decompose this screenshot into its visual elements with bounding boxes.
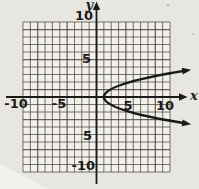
parabola-plot: y x -10 -5 5 10 10 5 5 -10 bbox=[0, 0, 199, 189]
x-axis-label: x bbox=[189, 88, 198, 103]
y-tick-neg10: -10 bbox=[72, 158, 96, 173]
x-tick-10: 10 bbox=[156, 98, 174, 113]
scan-speck bbox=[167, 4, 170, 7]
graph-figure: y x -10 -5 5 10 10 5 5 -10 bbox=[0, 0, 199, 189]
x-tick-neg5: -5 bbox=[52, 96, 66, 111]
y-tick-neg5: 5 bbox=[83, 128, 92, 143]
x-tick-5: 5 bbox=[123, 98, 132, 113]
y-tick-10: 10 bbox=[75, 8, 93, 23]
x-tick-neg10: -10 bbox=[4, 96, 28, 111]
scan-speck bbox=[192, 33, 194, 35]
y-tick-5: 5 bbox=[82, 51, 91, 66]
